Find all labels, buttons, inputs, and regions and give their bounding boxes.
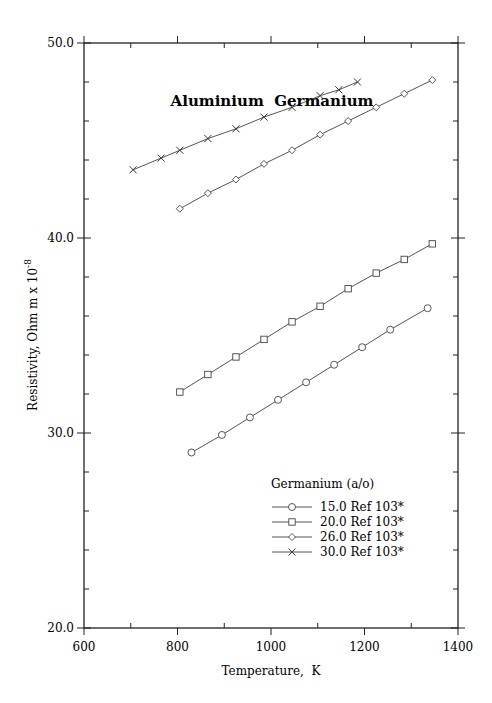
legend: Germanium (a/o) 15.0 Ref 103*20.0 Ref 10…	[271, 477, 404, 559]
series-square	[177, 241, 436, 396]
legend-entry: 26.0 Ref 103*	[272, 530, 404, 544]
diamond-marker-icon	[289, 147, 296, 154]
circle-marker-icon	[188, 449, 195, 456]
y-tick-label: 30.0	[47, 426, 74, 440]
square-marker-icon	[317, 303, 323, 309]
series-line	[180, 244, 432, 392]
legend-label: 15.0 Ref 103*	[320, 500, 404, 514]
square-marker-icon	[289, 319, 295, 325]
y-axis-label-exponent: -8	[23, 259, 33, 268]
y-tick-label: 40.0	[47, 231, 74, 245]
cross-marker-icon	[130, 166, 137, 173]
diamond-marker-icon	[373, 104, 380, 111]
square-marker-icon	[177, 389, 183, 395]
y-axis-label-text: Resistivity, Ohm m x 10	[26, 268, 40, 411]
circle-marker-icon	[246, 414, 253, 421]
cross-marker-icon	[204, 135, 211, 142]
axis-ticks: 60080010001200140020.030.040.050.0	[47, 36, 473, 654]
legend-entry: 15.0 Ref 103*	[272, 500, 404, 514]
chart-title: Aluminium Germanium	[170, 92, 374, 110]
circle-marker-icon	[218, 431, 225, 438]
data-series	[130, 77, 436, 456]
x-tick-label: 1200	[349, 640, 380, 654]
diamond-marker-icon	[429, 77, 436, 84]
diamond-marker-icon	[401, 90, 408, 97]
square-marker-icon	[345, 286, 351, 292]
legend-label: 30.0 Ref 103*	[320, 545, 404, 559]
circle-marker-icon	[424, 305, 431, 312]
cross-marker-icon	[158, 155, 165, 162]
square-marker-icon	[429, 241, 435, 247]
circle-marker-icon	[387, 326, 394, 333]
cross-marker-icon	[354, 79, 361, 86]
svg-text:Resistivity, Ohm m x 10-8: Resistivity, Ohm m x 10-8	[23, 259, 40, 411]
diamond-marker-icon	[176, 205, 183, 212]
cross-marker-icon	[176, 147, 183, 154]
legend-label: 26.0 Ref 103*	[320, 530, 404, 544]
circle-marker-icon	[359, 344, 366, 351]
diamond-marker-icon	[232, 176, 239, 183]
diamond-marker-icon	[260, 160, 267, 167]
diamond-marker-icon	[289, 534, 296, 541]
square-marker-icon	[401, 256, 407, 262]
cross-marker-icon	[232, 125, 239, 132]
circle-marker-icon	[289, 504, 296, 511]
circle-marker-icon	[303, 379, 310, 386]
circle-marker-icon	[275, 396, 282, 403]
legend-title: Germanium (a/o)	[271, 477, 374, 491]
square-marker-icon	[373, 270, 379, 276]
circle-marker-icon	[331, 361, 338, 368]
y-tick-label: 20.0	[47, 621, 74, 635]
x-tick-label: 1400	[443, 640, 474, 654]
legend-label: 20.0 Ref 103*	[320, 515, 404, 529]
x-axis-label: Temperature, K	[221, 664, 321, 678]
y-tick-label: 50.0	[47, 36, 74, 50]
square-marker-icon	[233, 354, 239, 360]
diamond-marker-icon	[345, 118, 352, 125]
x-tick-label: 800	[166, 640, 189, 654]
series-circle	[188, 305, 431, 456]
legend-entry: 30.0 Ref 103*	[272, 545, 404, 559]
diamond-marker-icon	[204, 190, 211, 197]
square-marker-icon	[289, 519, 295, 525]
diamond-marker-icon	[317, 131, 324, 138]
x-tick-label: 600	[73, 640, 96, 654]
chart: 60080010001200140020.030.040.050.0 Alumi…	[0, 0, 492, 703]
x-tick-label: 1000	[256, 640, 287, 654]
cross-marker-icon	[260, 114, 267, 121]
square-marker-icon	[261, 336, 267, 342]
y-axis-label: Resistivity, Ohm m x 10-8	[23, 259, 40, 411]
legend-entry: 20.0 Ref 103*	[272, 515, 404, 529]
square-marker-icon	[205, 371, 211, 377]
